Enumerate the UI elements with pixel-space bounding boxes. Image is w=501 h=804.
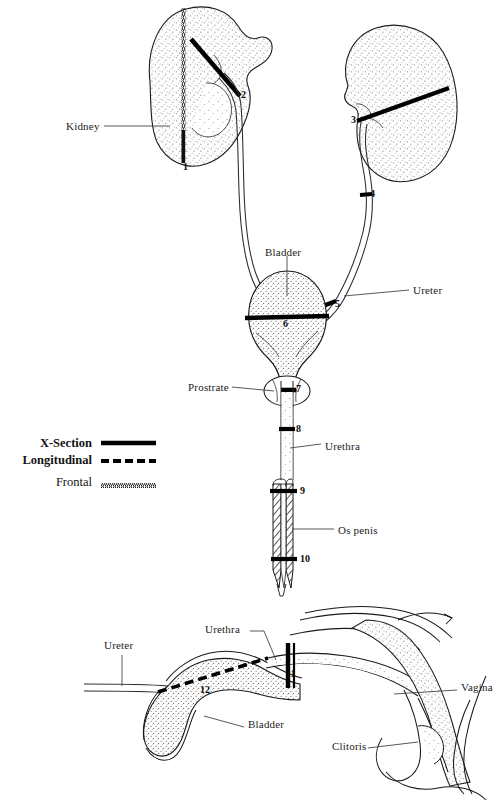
legend-label-x-section: X-Section [0, 436, 92, 451]
left-kidney [149, 7, 272, 166]
marker-number-12: 12 [200, 684, 210, 695]
marker-number-5: 5 [335, 298, 340, 309]
label-urethra-female: Urethra [205, 623, 240, 635]
marker-number-8: 8 [296, 423, 301, 434]
label-clitoris: Clitoris [332, 740, 367, 752]
marker-number-10: 10 [300, 553, 310, 564]
marker-number-3: 3 [351, 114, 356, 125]
label-ureter-male: Ureter [413, 284, 442, 296]
label-vagina: Vagina [461, 681, 493, 693]
leader-urethra [290, 444, 321, 448]
label-os-penis: Os penis [338, 524, 378, 536]
upper-panel-artwork [104, 7, 457, 596]
marker-number-7: 7 [296, 383, 301, 394]
lower-panel-artwork [84, 606, 486, 800]
marker-number-1: 1 [183, 161, 188, 172]
legend-label-frontal: Frontal [0, 475, 92, 490]
marker-number-4: 4 [370, 188, 375, 199]
vagina [290, 606, 486, 794]
leader-bladder-female [204, 716, 244, 727]
ureter-female [84, 684, 170, 693]
label-ureter-female: Ureter [104, 639, 133, 651]
label-bladder-male: Bladder [265, 246, 301, 258]
leader-ureter [344, 290, 409, 296]
leader-urethra-female-b [264, 631, 276, 660]
section-marker-1 [182, 8, 186, 163]
anatomical-figure: Kidney Bladder Ureter Prostrate Urethra … [0, 0, 501, 804]
label-urethra-male: Urethra [325, 440, 360, 452]
marker-number-6: 6 [283, 318, 288, 329]
frontal-swatch [101, 483, 156, 488]
os-penis [273, 479, 293, 596]
bladder-female [143, 651, 302, 760]
marker-number-2: 2 [241, 89, 246, 100]
legend-swatches [101, 443, 156, 488]
marker-number-9: 9 [300, 485, 305, 496]
label-bladder-female: Bladder [248, 718, 284, 730]
marker-number-11: 11 [286, 668, 295, 679]
leader-clitoris [368, 742, 418, 748]
label-prostrate: Prostrate [188, 381, 229, 393]
legend-label-longitudinal: Longitudinal [0, 453, 92, 468]
label-kidney: Kidney [66, 120, 100, 132]
